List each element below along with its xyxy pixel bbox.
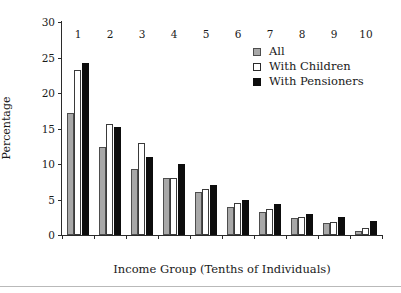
bar-group [131,22,153,235]
y-tick-mark [58,200,62,201]
x-tick-label: 3 [139,29,146,40]
x-tick-label: 2 [107,29,114,40]
y-tick-mark [58,164,62,165]
bar-group [67,22,89,235]
y-tick-label: 5 [48,194,55,205]
bar-with-pensioners [242,200,249,235]
x-tick-label: 10 [359,29,372,40]
x-axis-title: Income Group (Tenths of Individuals) [62,262,382,276]
bar-with-pensioners [82,63,89,235]
legend-label-with-pensioners: With Pensioners [269,76,364,88]
y-tick-mark [58,22,62,23]
x-tick-label: 1 [75,29,82,40]
bar-with-pensioners [306,214,313,235]
bar-with-children [234,203,241,235]
bar-all [227,207,234,235]
legend-swatch-all-icon [253,48,261,56]
x-tick-label: 6 [235,29,242,40]
bar-all [131,169,138,235]
y-tick-label: 10 [42,159,55,170]
y-tick-label: 15 [42,123,55,134]
bar-all [163,178,170,236]
bar-with-pensioners [274,204,281,235]
x-tick-mark [222,235,223,239]
y-tick-mark [58,58,62,59]
bar-all [67,113,74,235]
x-tick-mark [382,235,383,239]
bar-group [195,22,217,235]
x-tick-mark [350,235,351,239]
legend-swatch-with-pensioners-icon [253,78,261,86]
y-tick-mark [58,129,62,130]
bar-with-children [74,70,81,235]
y-tick-label: 20 [42,88,55,99]
bar-all [259,212,266,235]
bar-all [195,192,202,235]
x-tick-label: 7 [267,29,274,40]
bar-with-pensioners [114,127,121,235]
y-tick-mark [58,93,62,94]
x-tick-mark [190,235,191,239]
legend-swatch-with-children-icon [253,63,261,71]
bar-with-pensioners [338,217,345,235]
chart-legend: All With Children With Pensioners [253,44,364,89]
bar-all [291,218,298,235]
bar-with-pensioners [370,221,377,235]
x-tick-label: 5 [203,29,210,40]
x-tick-mark [126,235,127,239]
bar-with-children [138,143,145,235]
legend-item-with-children: With Children [253,59,364,74]
bar-with-children [266,209,273,235]
bar-with-children [106,124,113,235]
bar-with-children [298,217,305,235]
bar-group [163,22,185,235]
x-tick-mark [286,235,287,239]
bar-with-children [170,178,177,236]
bar-chart-figure: Percentage Income Group (Tenths of Indiv… [0,0,401,293]
x-tick-mark [318,235,319,239]
bottom-divider [0,286,401,287]
bar-all [323,223,330,235]
legend-label-all: All [269,46,285,58]
bar-with-children [202,189,209,235]
x-tick-label: 4 [171,29,178,40]
bar-all [355,231,362,235]
y-tick-label: 30 [42,17,55,28]
y-axis-title: Percentage [0,97,13,160]
bar-with-pensioners [146,157,153,235]
bar-group [227,22,249,235]
y-tick-label: 25 [42,52,55,63]
legend-item-with-pensioners: With Pensioners [253,74,364,89]
bar-with-pensioners [178,164,185,235]
x-tick-label: 8 [299,29,306,40]
x-tick-mark [254,235,255,239]
x-tick-label: 9 [331,29,338,40]
x-tick-mark [94,235,95,239]
legend-item-all: All [253,44,364,59]
legend-label-with-children: With Children [269,61,351,73]
bar-group [99,22,121,235]
bar-with-pensioners [210,185,217,235]
x-tick-mark [62,235,63,239]
x-tick-mark [158,235,159,239]
y-tick-label: 0 [48,230,55,241]
bar-with-children [330,222,337,235]
bar-with-children [362,228,369,235]
bar-all [99,147,106,235]
